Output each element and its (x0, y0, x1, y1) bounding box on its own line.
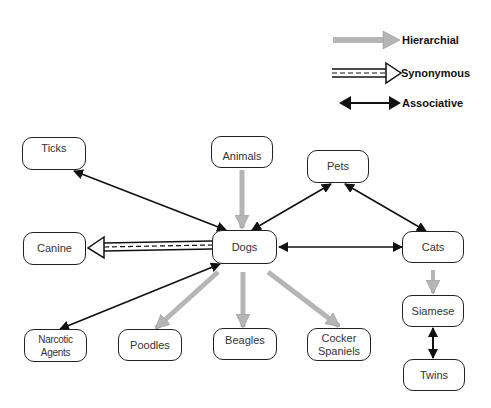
node-siamese[interactable]: Siamese (402, 295, 464, 327)
node-narcotic-agents[interactable]: Narcotic Agents (24, 329, 87, 362)
node-animals[interactable]: Animals (211, 136, 273, 168)
edge-dogs-canine (88, 237, 212, 258)
edge-dogs-ticks (74, 171, 226, 230)
legend-hierarchical-arrow (333, 31, 400, 49)
legend-associative-label: Associative (402, 97, 463, 109)
node-beagles[interactable]: Beagles (213, 328, 277, 360)
edge-dogs-poodles (156, 272, 218, 328)
edge-pets-cats (345, 184, 426, 231)
thesaurus-relationship-diagram: Hierarchial Synonymous Associative Ticks… (0, 0, 491, 408)
edge-dogs-pets (252, 184, 331, 230)
node-cats[interactable]: Cats (402, 231, 464, 263)
edge-dogs-narcotic-agents (60, 264, 220, 329)
node-ticks[interactable]: Ticks (22, 137, 86, 170)
node-cocker-spaniels[interactable]: Cocker Spaniels (307, 328, 371, 361)
node-twins[interactable]: Twins (403, 359, 465, 391)
legend-hierarchical-label: Hierarchial (402, 34, 459, 46)
legend-synonymous-arrow (332, 63, 401, 83)
legend-synonymous-label: Synonymous (401, 67, 470, 79)
legend-associative-arrow (339, 96, 401, 110)
node-pets[interactable]: Pets (307, 150, 369, 183)
edge-dogs-cocker-spaniels (268, 272, 339, 326)
node-canine[interactable]: Canine (23, 232, 86, 265)
node-dogs[interactable]: Dogs (212, 230, 277, 264)
node-poodles[interactable]: Poodles (118, 329, 182, 361)
